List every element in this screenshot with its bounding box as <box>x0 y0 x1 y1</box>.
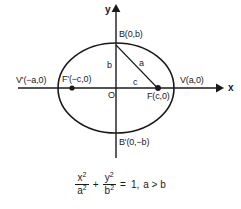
equation-rhs: 1, <box>130 179 139 190</box>
ellipse-equation: x2 a2 + y2 b2 = 1, a > b <box>0 172 241 196</box>
y-axis-label: y <box>105 5 110 15</box>
focal-radius-label: a <box>139 58 144 68</box>
plus-operator: + <box>92 179 100 190</box>
vertex-right-label: V(a,0) <box>180 75 204 85</box>
focus-left-dot <box>69 85 74 90</box>
fraction-x-term: x2 a2 <box>75 173 88 196</box>
x-axis-arrowhead <box>216 84 224 93</box>
x-axis-label: x <box>228 83 233 93</box>
covertex-bottom-label: B'(0,−b) <box>119 137 149 147</box>
x-denominator-exponent: 2 <box>83 184 87 191</box>
ellipse-diagram: x y O V'(−a,0) V(a,0) F'(−c,0) F(c,0) B(… <box>0 0 241 209</box>
y-axis-arrowhead <box>112 4 121 12</box>
fraction-y-denominator: b2 <box>103 185 116 196</box>
focal-distance-label: c <box>133 77 137 87</box>
covertex-top-label: B(0,b) <box>119 29 143 39</box>
x-numerator-exponent: 2 <box>83 171 87 178</box>
focus-right-label: F(c,0) <box>147 91 170 101</box>
equation-condition: a > b <box>142 179 166 190</box>
fraction-x-numerator: x2 <box>76 173 89 184</box>
vertex-left-label: V'(−a,0) <box>16 75 46 85</box>
fraction-y-term: y2 b2 <box>103 173 116 196</box>
semi-minor-label: b <box>107 60 112 70</box>
origin-label: O <box>108 90 115 100</box>
fraction-x-denominator: a2 <box>75 185 88 196</box>
y-denominator-exponent: 2 <box>110 184 114 191</box>
fraction-y-numerator: y2 <box>103 173 116 184</box>
focus-left-label: F'(−c,0) <box>62 74 91 84</box>
equals-operator: = <box>119 179 127 190</box>
y-numerator-exponent: 2 <box>110 171 114 178</box>
equation-row: x2 a2 + y2 b2 = 1, a > b <box>75 173 166 196</box>
